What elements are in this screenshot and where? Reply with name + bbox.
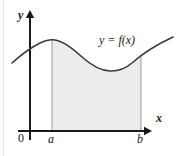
shaded-area-under-curve <box>52 40 141 131</box>
x-axis-arrow-icon <box>144 127 152 135</box>
function-curve-label: y = f(x) <box>99 34 135 46</box>
area-under-curve-figure: y x 0 a b y = f(x) <box>0 0 180 156</box>
x-axis-label: x <box>156 112 162 124</box>
y-axis-arrow-icon <box>26 10 34 18</box>
tick-label-b: b <box>137 133 143 145</box>
function-curve <box>12 37 173 71</box>
origin-label: 0 <box>18 132 24 144</box>
tick-label-a: a <box>48 133 54 145</box>
y-axis-label: y <box>18 9 23 21</box>
figure-canvas <box>0 0 180 156</box>
